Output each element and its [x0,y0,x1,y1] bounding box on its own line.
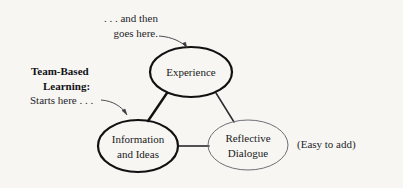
annotation-left-note-line3: Starts here . . . [30,94,93,106]
node-information-and-ideas[interactable]: Information and Ideas [98,120,178,172]
arrow-left-note-head [122,109,127,115]
annotation-left-note-line1: Team-Based [31,65,89,77]
annotation-left-note-line2: Learning: [43,80,90,92]
arrow-top-note-to-experience [159,36,187,48]
node-information-and-ideas-shape [98,120,178,172]
node-reflective-dialogue-label-line1: Reflective [225,132,270,144]
connector-experience-information [148,93,167,121]
annotation-right-note-text: (Easy to add) [297,138,356,151]
annotation-top-note-line1: . . . and then [104,12,159,24]
node-experience-label: Experience [166,66,216,78]
node-experience[interactable]: Experience [150,47,232,97]
diagram-canvas: Experience Information and Ideas Reflect… [0,0,403,188]
arrow-top-note-curve [159,36,187,47]
node-information-and-ideas-label-line2: and Ideas [117,148,159,160]
annotation-top-note: . . . and then goes here. [104,12,159,39]
node-reflective-dialogue-shape [208,120,288,170]
node-information-and-ideas-label-line1: Information [112,133,165,145]
arrow-left-note-to-information [101,100,127,115]
node-reflective-dialogue-label-line2: Dialogue [228,147,268,159]
node-reflective-dialogue[interactable]: Reflective Dialogue [208,120,288,170]
annotation-top-note-line2: goes here. [113,27,158,39]
annotation-left-note: Team-Based Learning: Starts here . . . [30,65,93,106]
diagram-root: Experience Information and Ideas Reflect… [0,0,403,188]
connector-experience-reflective [216,93,234,122]
annotation-right-note: (Easy to add) [297,138,356,151]
